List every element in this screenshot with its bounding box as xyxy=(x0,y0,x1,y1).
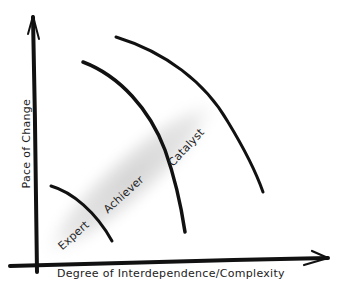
diagram-canvas xyxy=(0,0,348,296)
development-band xyxy=(23,78,236,277)
y-axis-label: Pace of Change xyxy=(21,109,32,189)
x-axis-label: Degree of Interdependence/Complexity xyxy=(57,268,285,279)
